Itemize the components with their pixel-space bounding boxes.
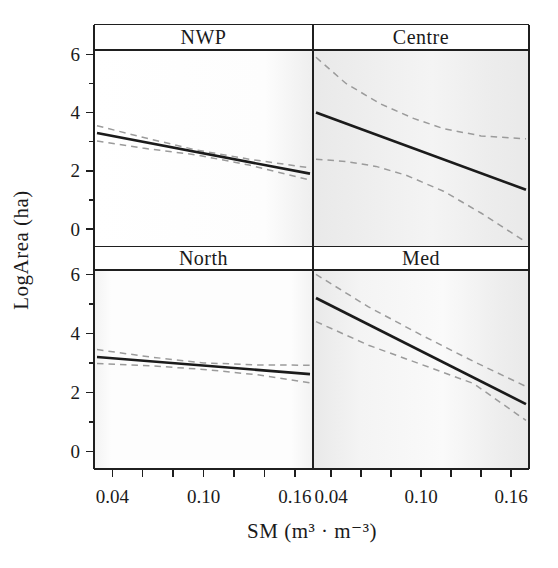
plot-canvas: 0.040.100.160.040.100.1602460246	[0, 0, 558, 568]
x-tick-label: 0.10	[187, 486, 220, 507]
y-tick-label: 6	[71, 44, 81, 65]
x-axis-label: SM (m³ · m⁻³)	[247, 519, 377, 544]
lattice-figure: 0.040.100.160.040.100.1602460246 NWP Cen…	[0, 0, 558, 568]
panel-bg-med	[313, 270, 529, 469]
x-axis-ticks	[112, 469, 511, 477]
y-tick-label: 0	[71, 219, 81, 240]
y-tick-label: 6	[71, 264, 81, 285]
y-tick-label: 2	[71, 382, 81, 403]
x-tick-label: 0.16	[278, 486, 311, 507]
y-axis-ticks	[86, 54, 94, 451]
y-tick-label: 4	[71, 102, 81, 123]
x-tick-label: 0.04	[96, 486, 130, 507]
x-tick-label: 0.10	[404, 486, 437, 507]
y-tick-label: 4	[71, 323, 81, 344]
y-axis-tick-labels: 02460246	[71, 44, 81, 462]
x-axis-tick-labels: 0.040.100.160.040.100.16	[96, 486, 528, 507]
y-axis-label: LogArea (ha)	[9, 190, 34, 310]
x-tick-label: 0.16	[494, 486, 527, 507]
y-tick-label: 0	[71, 441, 81, 462]
x-tick-label: 0.04	[314, 486, 348, 507]
panel-bg-centre	[313, 50, 529, 247]
y-tick-label: 2	[71, 160, 81, 181]
panel-bg-nwp	[94, 50, 313, 247]
